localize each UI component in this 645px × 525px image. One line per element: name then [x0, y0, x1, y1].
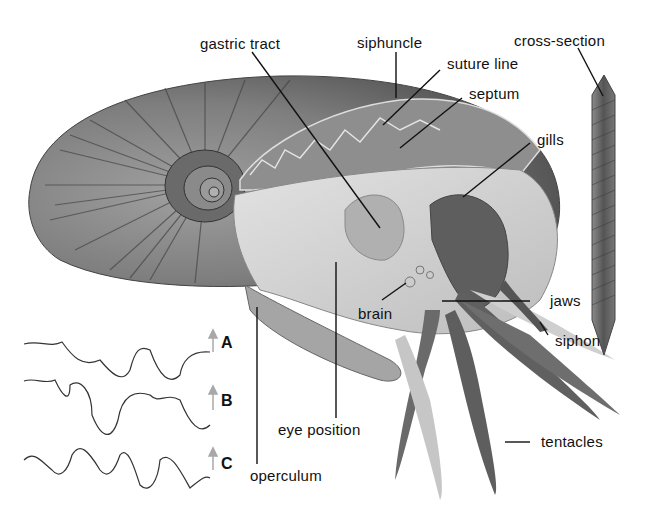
label-gills: gills	[537, 131, 564, 148]
suture-patterns	[24, 342, 210, 488]
label-cross-section: cross-section	[514, 32, 605, 49]
label-siphuncle: siphuncle	[357, 34, 422, 51]
label-gastric-tract: gastric tract	[200, 35, 280, 52]
label-operculum: operculum	[250, 467, 322, 484]
label-siphon: siphon	[555, 332, 600, 349]
label-brain: brain	[358, 305, 392, 322]
suture-label-a: A	[221, 334, 233, 352]
suture-label-b: B	[221, 392, 233, 410]
cross-section-illustration	[592, 75, 615, 355]
suture-arrows	[209, 330, 217, 470]
suture-label-c: C	[221, 455, 233, 473]
label-tentacles: tentacles	[541, 433, 603, 450]
label-eye-position: eye position	[278, 421, 360, 438]
label-suture-line: suture line	[447, 55, 518, 72]
label-jaws: jaws	[550, 292, 581, 309]
label-septum: septum	[469, 85, 519, 102]
